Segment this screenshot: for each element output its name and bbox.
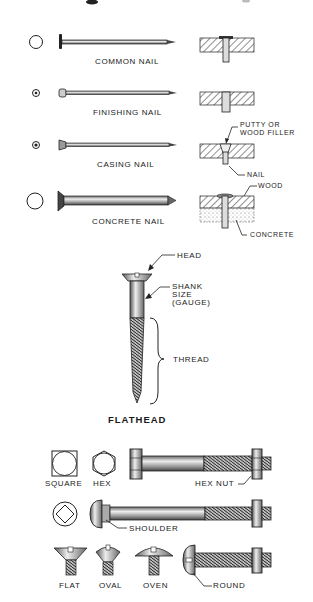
casing-nail-label: CASING NAIL — [97, 160, 154, 169]
flathead-screw-icon — [122, 273, 152, 403]
oval-label: OVAL — [99, 581, 122, 590]
finishing-nail-icon — [59, 89, 177, 97]
shoulder-label: SHOULDER — [129, 524, 178, 533]
common-nail-head-icon — [30, 36, 43, 49]
wood-leader-line — [244, 186, 257, 196]
thread-label: THREAD — [173, 355, 210, 364]
concrete-nail-icon — [58, 191, 176, 211]
bolt-head-shapes — [52, 451, 115, 476]
oven-label: OVEN — [143, 581, 168, 590]
round-leader-line — [193, 573, 212, 586]
cropped-top-artifacts — [86, 0, 250, 5]
flat-label: FLAT — [59, 581, 80, 590]
concrete-nail-head-icon — [27, 193, 43, 209]
concrete-callout-label: CONCRETE — [250, 231, 294, 239]
hex-label: HEX — [93, 479, 111, 488]
common-nail-section-icon — [200, 36, 254, 62]
finishing-nail-label: FINISHING NAIL — [93, 108, 162, 117]
putty-leader-line — [227, 127, 238, 141]
shank-leader-line — [149, 287, 170, 297]
wood-callout-label: WOOD — [258, 182, 283, 190]
common-nail-icon — [59, 34, 176, 49]
head-label: HEAD — [177, 251, 202, 260]
common-nail-label: COMMON NAIL — [95, 57, 159, 66]
oval-head-screw-icon — [96, 545, 120, 575]
nail-leader-line — [229, 166, 245, 175]
carriage-bolt-icon — [90, 500, 271, 528]
casing-nail-icon — [59, 140, 177, 150]
square-label: SQUARE — [45, 479, 82, 488]
putty-label-2: WOOD FILLER — [240, 129, 295, 137]
concrete-nail-section-icon — [200, 186, 257, 235]
oven-head-screw-icon — [135, 547, 173, 575]
concrete-nail-group — [27, 186, 257, 235]
finishing-nail-section-icon — [200, 92, 254, 112]
hardware-diagram — [0, 0, 313, 602]
concrete-nail-label: CONCRETE NAIL — [92, 217, 165, 226]
machine-screw-heads — [54, 545, 271, 586]
flathead-title: FLATHEAD — [108, 414, 166, 425]
flat-head-screw-icon — [54, 547, 87, 575]
hex-head-icon — [93, 451, 115, 476]
hex-nut-label: HEX NUT — [195, 479, 234, 488]
round-head-bolt-icon — [183, 545, 271, 586]
thread-brace — [150, 318, 164, 404]
shank-label-3: (GAUGE) — [172, 299, 210, 307]
round-label: ROUND — [213, 581, 245, 590]
head-leader-line — [150, 255, 175, 268]
hex-nut-leader-line — [238, 476, 251, 484]
nail-callout-label: NAIL — [247, 171, 265, 179]
flathead-screw-group — [122, 255, 175, 404]
putty-label-1: PUTTY OR — [240, 121, 280, 129]
